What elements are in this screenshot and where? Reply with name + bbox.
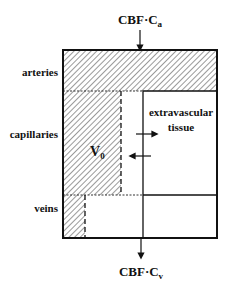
outflow-label: CBF·Cv <box>119 264 164 281</box>
vascular-compartment-diagram: CBF·Ca arteries capillaries veins extrav… <box>0 0 231 297</box>
arteries-region <box>63 50 217 91</box>
tissue-label-line1: extravascular <box>149 106 213 118</box>
tissue-label-line2: tissue <box>168 121 194 133</box>
veins-label: veins <box>34 202 59 214</box>
arteries-label: arteries <box>22 66 59 78</box>
capillaries-blood-region <box>63 91 121 195</box>
veins-region <box>63 195 85 238</box>
capillaries-label: capillaries <box>10 128 59 140</box>
inflow-label: CBF·Ca <box>118 12 163 29</box>
